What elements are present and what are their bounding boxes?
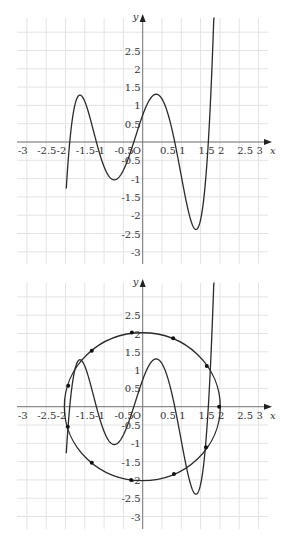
y-tick-label: 1.5 [125, 347, 141, 358]
y-tick-label: -2.5 [121, 493, 140, 504]
y-tick-label: 1 [134, 100, 140, 111]
x-tick-label: -1.5 [76, 410, 95, 421]
x-tick-label: 1.5 [199, 410, 215, 421]
top-plot-svg: xyO-3-2.5-2-1.5-1-0.50.511.522.532.521.5… [0, 0, 284, 270]
y-tick-label: -1.5 [121, 192, 140, 203]
top-plot: xyO-3-2.5-2-1.5-1-0.50.511.522.532.521.5… [0, 0, 284, 270]
x-tick-label: 2.5 [237, 410, 253, 421]
x-tick-label: -3 [18, 410, 28, 421]
y-tick-label: -2.5 [121, 229, 140, 240]
point-marker [66, 425, 70, 429]
point-marker [205, 364, 209, 368]
point-marker [90, 461, 94, 465]
x-tick-label: 3 [257, 145, 263, 156]
point-marker [171, 336, 175, 340]
point-marker [130, 330, 134, 334]
y-tick-label: -0.5 [121, 420, 140, 431]
x-tick-label: 2.5 [237, 145, 253, 156]
y-tick-label: 2 [134, 64, 140, 75]
y-tick-label: -3 [131, 247, 141, 258]
y-tick-label: 1.5 [125, 82, 141, 93]
point-marker [90, 349, 94, 353]
point-marker [172, 472, 176, 476]
axes: xyO-3-2.5-2-1.5-1-0.50.511.522.532.521.5… [17, 11, 276, 264]
x-tick-label: -2.5 [37, 410, 56, 421]
y-tick-label: 1 [134, 365, 140, 376]
y-axis-arrow-icon [140, 14, 146, 22]
y-tick-label: -1 [131, 174, 141, 185]
y-tick-label: -1.5 [121, 457, 140, 468]
y-tick-label: -3 [131, 512, 141, 523]
axes: xyO-3-2.5-2-1.5-1-0.50.511.522.532.521.5… [17, 276, 276, 529]
point-marker [66, 384, 70, 388]
y-tick-label: 2 [134, 329, 140, 340]
x-tick-label: -3 [18, 145, 28, 156]
y-axis-arrow-icon [140, 279, 146, 287]
x-tick-label: 2 [218, 145, 224, 156]
point-marker [204, 445, 208, 449]
x-tick-label: 3 [257, 410, 263, 421]
x-tick-label: -1.5 [76, 145, 95, 156]
x-tick-label: -2.5 [37, 145, 56, 156]
bottom-plot-svg: xyO-3-2.5-2-1.5-1-0.50.511.522.532.521.5… [0, 265, 284, 545]
point-marker [129, 478, 133, 482]
x-axis-label: x [270, 410, 276, 421]
x-tick-label: 0.5 [160, 410, 176, 421]
y-tick-label: -0.5 [121, 155, 140, 166]
x-axis-label: x [270, 145, 276, 156]
y-tick-label: -1 [131, 438, 141, 449]
x-tick-label: 1 [179, 410, 185, 421]
y-axis-label: y [132, 276, 139, 287]
y-tick-label: -2 [131, 210, 141, 221]
point-marker [217, 405, 221, 409]
x-tick-label: 1.5 [199, 145, 215, 156]
bottom-plot: xyO-3-2.5-2-1.5-1-0.50.511.522.532.521.5… [0, 265, 284, 545]
x-tick-label: 1 [179, 145, 185, 156]
x-tick-label: -2 [57, 145, 67, 156]
y-tick-label: 2.5 [125, 46, 141, 57]
y-axis-label: y [132, 11, 139, 22]
y-tick-label: 2.5 [125, 310, 141, 321]
x-tick-label: 0.5 [160, 145, 176, 156]
